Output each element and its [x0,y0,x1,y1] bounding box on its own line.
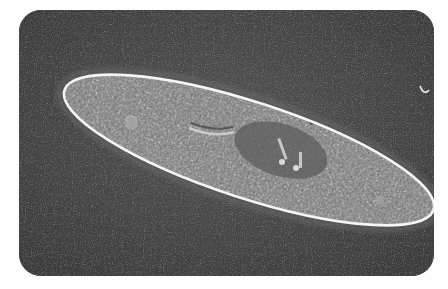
paramecium-micrograph [19,10,434,276]
micrograph-frame [19,10,434,276]
vacuole [124,115,138,129]
